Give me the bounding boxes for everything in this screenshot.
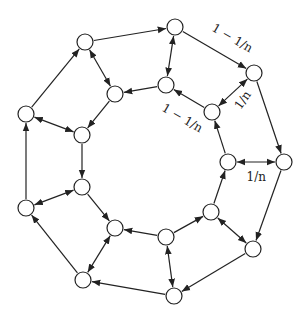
node-o8 bbox=[18, 106, 34, 122]
edge-o2-o3 bbox=[257, 82, 281, 154]
node-o1 bbox=[167, 19, 183, 35]
node-i2 bbox=[204, 104, 220, 120]
edge-i3-i2 bbox=[215, 121, 226, 154]
edge-o6-i6 bbox=[88, 236, 111, 273]
node-o2 bbox=[246, 65, 262, 81]
node-i7 bbox=[74, 179, 90, 195]
node-i4 bbox=[203, 204, 219, 220]
edge-i2-i1 bbox=[174, 90, 204, 108]
edge-o8-o9 bbox=[32, 49, 80, 107]
node-i8 bbox=[74, 127, 90, 143]
edge-o4-i4 bbox=[218, 218, 246, 243]
graph-diagram: 1 − 1/n1/n1 − 1/n1/n bbox=[0, 0, 307, 321]
edge-o9-o1 bbox=[94, 28, 166, 40]
edges bbox=[26, 28, 281, 294]
edge-i7-i6 bbox=[88, 194, 110, 221]
edge-o7-i7 bbox=[34, 190, 73, 205]
node-o7 bbox=[18, 200, 34, 216]
node-i3 bbox=[220, 154, 236, 170]
node-o9 bbox=[77, 34, 93, 50]
edge-o1-i1 bbox=[167, 36, 173, 76]
edge-i4-i3 bbox=[214, 171, 225, 204]
node-i6 bbox=[107, 220, 123, 236]
node-o5 bbox=[166, 288, 182, 304]
edge-i1-i9 bbox=[124, 87, 157, 93]
edge-i5-i4 bbox=[174, 216, 203, 232]
edge-label: 1/n bbox=[247, 170, 266, 184]
node-o6 bbox=[75, 272, 91, 288]
graph-svg bbox=[0, 0, 307, 321]
node-i5 bbox=[158, 229, 174, 245]
edge-o5-o6 bbox=[92, 282, 165, 295]
node-o3 bbox=[276, 154, 292, 170]
edge-i5-i6 bbox=[124, 230, 157, 236]
edge-o4-o5 bbox=[182, 254, 246, 292]
node-i1 bbox=[158, 77, 174, 93]
node-o4 bbox=[245, 241, 261, 257]
edge-o8-i8 bbox=[34, 117, 73, 132]
edge-i9-i8 bbox=[88, 101, 110, 128]
edge-o5-i5 bbox=[167, 246, 173, 287]
node-i9 bbox=[107, 86, 123, 102]
edge-o9-i9 bbox=[89, 50, 110, 86]
edge-o6-o7 bbox=[32, 215, 78, 273]
